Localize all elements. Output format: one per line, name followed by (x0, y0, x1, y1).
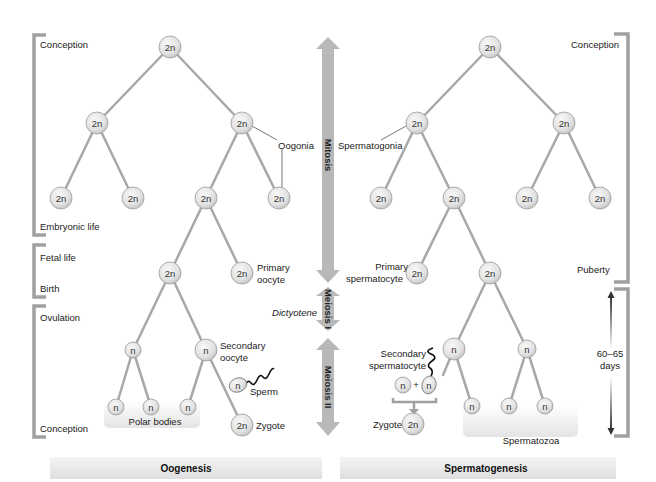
svg-text:n: n (542, 401, 547, 412)
duration-value: 60–65 (597, 348, 623, 359)
dictyotene-label: Dictyotene (272, 307, 317, 318)
meiosis-2-label: Meiosis II (323, 366, 334, 409)
timeline-conception-top: Conception (40, 39, 88, 50)
cell-node: 2n (370, 187, 392, 209)
primary-oocyte-label-1: Primary (257, 262, 290, 273)
cell-node: 2n (195, 187, 217, 209)
svg-text:n: n (426, 380, 431, 391)
spermatogenesis-band: Spermatogenesis (340, 457, 616, 479)
svg-text:2n: 2n (559, 118, 570, 129)
timeline-conception-right: Conception (571, 39, 619, 50)
svg-text:n: n (524, 344, 529, 355)
spermatozoa-box (463, 405, 578, 437)
svg-text:n: n (148, 402, 153, 413)
cell-node: n (125, 342, 141, 358)
svg-text:2n: 2n (201, 193, 212, 204)
secondary-oocyte-label-1: Secondary (220, 340, 266, 351)
primary-spermatocyte-label-2: spermatocyte (346, 273, 403, 284)
timeline-ovulation: Ovulation (40, 312, 80, 323)
svg-text:2n: 2n (376, 193, 387, 204)
plus-sign: + (413, 379, 419, 390)
cell-node: 2n (443, 187, 465, 209)
spermatogonia-label: Spermatogonia (338, 140, 403, 151)
meiosis-1-label: Meiosis I (323, 289, 334, 329)
oogenesis-branches (61, 47, 279, 425)
mitosis-label: Mitosis (323, 139, 334, 172)
svg-text:n: n (400, 380, 405, 391)
secondary-spermatocyte-label-1: Secondary (381, 348, 427, 359)
sperm-label: Sperm (250, 386, 278, 397)
zygote-label-left: Zygote (256, 420, 285, 431)
cell-node: 2n (479, 36, 501, 58)
oogenesis-nodes: 2n 2n 2n 2n 2n 2n 2n 2n 2n n n n n n n 2… (50, 36, 290, 436)
svg-text:2n: 2n (274, 193, 285, 204)
primary-oocyte-node: 2n (231, 262, 253, 284)
embryonic-bracket (34, 35, 46, 235)
svg-text:2n: 2n (56, 193, 67, 204)
spermatogenesis-nodes: 2n 2n 2n 2n 2n 2n 2n 2n 2n n n n n n n +… (370, 36, 611, 435)
cell-node: 2n (516, 187, 538, 209)
fertilization-bracket (393, 398, 436, 415)
svg-text:n: n (203, 345, 208, 356)
polar-body-node: n (180, 399, 196, 415)
svg-text:2n: 2n (237, 118, 248, 129)
secondary-spermatocyte-label-2: spermatocyte (369, 360, 426, 371)
svg-text:n: n (235, 380, 240, 391)
svg-text:n: n (130, 345, 135, 356)
polar-body-node: n (108, 399, 124, 415)
oogenesis-title: Oogenesis (160, 463, 212, 474)
spermatogonia-pointer (381, 126, 406, 140)
svg-text:2n: 2n (92, 118, 103, 129)
polar-body-node: n (143, 399, 159, 415)
oogenesis-band: Oogenesis (50, 457, 322, 479)
timeline-conception-bottom: Conception (40, 423, 88, 434)
timeline-puberty: Puberty (577, 264, 610, 275)
cell-node: 2n (50, 187, 72, 209)
cell-node: 2n (159, 262, 181, 284)
zygote-label-right: Zygote (373, 419, 402, 430)
secondary-oocyte-label-2: oocyte (220, 352, 248, 363)
svg-text:n: n (469, 401, 474, 412)
polar-bodies-label: Polar bodies (129, 416, 182, 427)
svg-text:2n: 2n (237, 420, 248, 431)
timeline-birth: Birth (40, 283, 60, 294)
zygote-node: 2n (402, 413, 424, 435)
cell-node: 2n (159, 36, 181, 58)
cell-node: 2n (231, 112, 253, 134)
spermatozoon-node: n (501, 398, 517, 414)
oogonia-pointer (252, 126, 282, 188)
spermatozoa-label: Spermatozoa (503, 435, 560, 446)
svg-text:2n: 2n (522, 193, 533, 204)
cell-node: 2n (86, 112, 108, 134)
gametogenesis-diagram: Oogenesis Spermatogenesis Conception Emb… (0, 0, 656, 482)
spermatozoon-node: n (464, 398, 480, 414)
spermatozoon-node: n (537, 398, 553, 414)
secondary-spermatocyte-node: n (518, 340, 536, 358)
primary-spermatocyte-node: 2n (406, 262, 428, 284)
oogonia-label: Oogonia (278, 140, 315, 151)
prepuberty-bracket (614, 34, 628, 282)
ovulation-bracket (34, 306, 46, 437)
svg-text:2n: 2n (165, 268, 176, 279)
svg-text:n: n (506, 401, 511, 412)
oogenesis-timeline (34, 35, 46, 437)
cell-node: 2n (406, 112, 428, 134)
secondary-oocyte-node: n (195, 339, 217, 361)
svg-text:2n: 2n (595, 193, 606, 204)
timeline-fetal-life: Fetal life (40, 252, 76, 263)
timeline-embryonic-life: Embryonic life (40, 221, 100, 232)
svg-text:2n: 2n (449, 193, 460, 204)
svg-text:n: n (185, 402, 190, 413)
cell-node: 2n (553, 112, 575, 134)
svg-text:2n: 2n (408, 419, 419, 430)
spermatogenesis-title: Spermatogenesis (444, 463, 528, 474)
primary-oocyte-label-2: oocyte (257, 274, 285, 285)
egg-node: n (395, 377, 411, 393)
svg-text:2n: 2n (485, 42, 496, 53)
primary-spermatocyte-label-1: Primary (375, 261, 408, 272)
zygote-node: 2n (231, 414, 253, 436)
svg-text:2n: 2n (485, 268, 496, 279)
secondary-spermatocyte-node: n (443, 338, 465, 360)
svg-text:2n: 2n (165, 42, 176, 53)
svg-text:n: n (451, 344, 456, 355)
